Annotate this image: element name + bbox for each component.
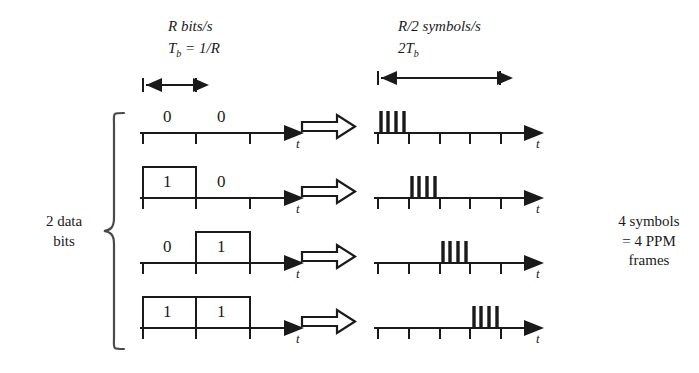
ppm-row-4: [374, 306, 524, 339]
waveform-row-1: [140, 133, 284, 144]
ppm-row-2: [374, 176, 524, 209]
data-pulse-row-2-first-half: [143, 167, 196, 198]
ppm-row-1: [374, 111, 524, 144]
pulse-burst-row-3: [443, 241, 466, 263]
pulse-burst-row-4: [474, 306, 497, 328]
waveform-row-2: [140, 167, 284, 209]
transform-arrow-row-2: [302, 180, 355, 203]
waveform-row-4: [140, 297, 284, 339]
two-tb-measure-bar: [378, 71, 500, 85]
ppm-row-3: [374, 241, 524, 274]
left-curly-brace: [104, 113, 124, 349]
tb-measure-bar: [143, 78, 196, 92]
pulse-burst-row-1: [381, 111, 404, 133]
ppm-diagram: R bits/s Tb = 1/R R/2 symbols/s 2Tb 2 da…: [0, 0, 699, 373]
waveform-row-3: [140, 232, 284, 274]
transform-arrow-row-3: [302, 245, 355, 268]
pulse-burst-row-2: [412, 176, 435, 198]
data-pulse-row-3-second-half: [196, 232, 250, 263]
transform-arrow-row-1: [302, 115, 355, 138]
diagram-vector-layer: [0, 0, 699, 373]
transform-arrow-row-4: [302, 310, 355, 333]
